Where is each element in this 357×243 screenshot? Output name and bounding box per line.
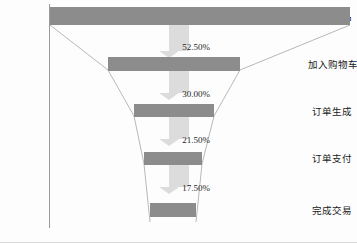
funnel-bar-1[interactable] [108, 57, 240, 71]
connector-arrow-head-1 [159, 93, 179, 100]
funnel-bar-0[interactable] [50, 7, 350, 25]
category-axis-line [49, 4, 50, 228]
funnel-bar-2[interactable] [134, 104, 214, 117]
stage-label-3: 订单支付 [308, 153, 357, 164]
connector-arrow-head-2 [159, 139, 179, 146]
connector-arrow-head-3 [159, 187, 179, 194]
conversion-label-1: 30.00% [182, 89, 210, 99]
funnel-chart: 浏览产品 52.50% 加入购物车 30.00% 订单生成 21.50% 订单支… [0, 0, 357, 243]
conversion-label-2: 21.50% [182, 135, 210, 145]
funnel-bar-3[interactable] [144, 152, 202, 165]
funnel-bar-4[interactable] [150, 203, 196, 217]
conversion-label-3: 17.50% [182, 183, 210, 193]
stage-label-1: 加入购物车 [308, 59, 357, 70]
conversion-label-0: 52.50% [182, 42, 210, 52]
stage-label-2: 订单生成 [308, 106, 357, 117]
stage-label-4: 完成交易 [308, 205, 357, 216]
